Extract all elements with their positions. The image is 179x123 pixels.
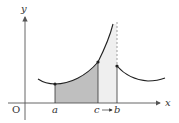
label-b: b <box>114 104 120 115</box>
x-axis-label: x <box>165 97 171 108</box>
label-a: a <box>52 104 58 115</box>
function-graph: y x O a c b <box>0 0 179 123</box>
point-c <box>96 60 99 63</box>
point-b <box>115 64 118 67</box>
curve-right-branch <box>117 66 165 81</box>
light-shaded-region <box>98 24 117 103</box>
label-c: c <box>94 104 100 115</box>
point-a <box>53 82 56 85</box>
origin-label: O <box>12 104 20 115</box>
y-axis-label: y <box>20 3 27 14</box>
